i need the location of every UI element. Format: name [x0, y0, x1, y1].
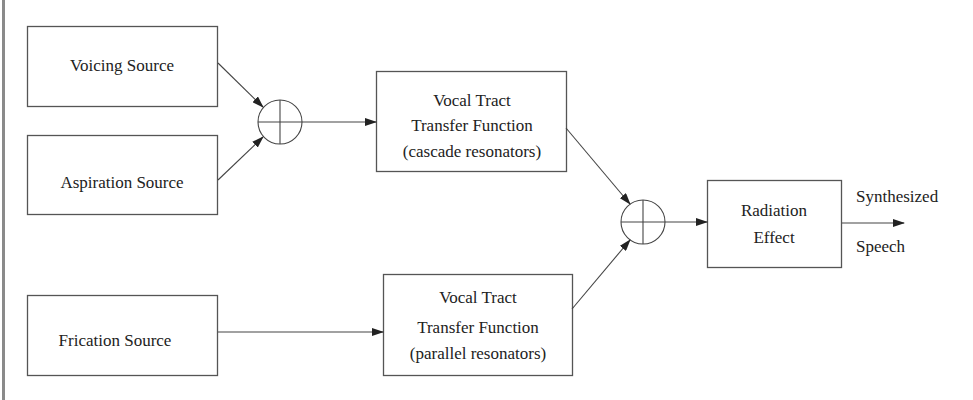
arrow-voicing-to-sum1	[218, 63, 263, 107]
parallel-vocal-tract-box: Vocal Tract Transfer Function (parallel …	[384, 275, 573, 376]
radiation-line-1: Radiation	[741, 201, 808, 220]
parallel-line-1: Vocal Tract	[439, 288, 517, 307]
summing-junction-1	[258, 100, 302, 144]
cascade-vocal-tract-box: Vocal Tract Transfer Function (cascade r…	[377, 72, 567, 172]
arrow-aspiration-to-sum1	[218, 137, 263, 180]
arrow-cascade-to-sum2	[566, 128, 630, 204]
frication-source-label: Frication Source	[59, 331, 172, 350]
frication-source-box: Frication Source	[28, 296, 218, 376]
parallel-line-2: Transfer Function	[417, 318, 539, 337]
radiation-effect-box: Radiation Effect	[708, 181, 842, 268]
aspiration-source-box: Aspiration Source	[28, 136, 218, 215]
speech-synthesis-block-diagram: Voicing Source Aspiration Source Fricati…	[0, 0, 973, 400]
output-label-synthesized: Synthesized	[856, 187, 939, 206]
parallel-line-3: (parallel resonators)	[410, 344, 546, 363]
voicing-source-label: Voicing Source	[70, 56, 174, 75]
output-label-speech: Speech	[856, 237, 906, 256]
cascade-line-2: Transfer Function	[411, 116, 533, 135]
summing-junction-2	[621, 200, 665, 244]
voicing-source-box: Voicing Source	[28, 27, 218, 107]
cascade-line-1: Vocal Tract	[433, 91, 511, 110]
radiation-line-2: Effect	[753, 228, 794, 247]
aspiration-source-label: Aspiration Source	[60, 173, 183, 192]
arrow-parallel-to-sum2	[572, 240, 630, 309]
cascade-line-3: (cascade resonators)	[403, 142, 541, 161]
left-border-bar	[2, 0, 5, 400]
